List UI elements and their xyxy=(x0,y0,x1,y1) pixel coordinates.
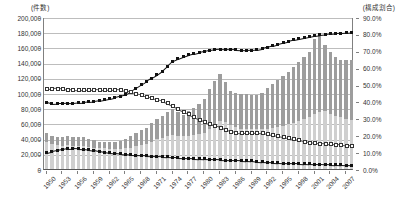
y-axis-tick-mark xyxy=(38,155,41,156)
data-point-marker xyxy=(56,87,60,91)
y-axis-tick-label: 140,000 xyxy=(4,60,41,67)
data-point-marker xyxy=(208,49,211,52)
x-axis-tick-mark xyxy=(77,171,78,174)
data-point-marker xyxy=(182,55,185,58)
bar-segment-upper xyxy=(92,140,95,148)
y-axis-tick-mark xyxy=(38,18,41,19)
bar-column xyxy=(271,84,274,169)
x-axis-tick-mark xyxy=(282,171,283,174)
bar-segment-upper xyxy=(213,81,216,125)
data-point-marker xyxy=(255,131,259,135)
data-point-marker xyxy=(77,88,81,92)
y2-axis-tick-mark xyxy=(356,18,359,19)
data-point-marker xyxy=(329,163,332,166)
data-point-marker xyxy=(108,88,112,92)
data-point-marker xyxy=(350,144,354,148)
data-point-marker xyxy=(245,131,249,135)
data-point-marker xyxy=(155,73,158,76)
bar-segment-lower xyxy=(213,125,216,169)
data-point-marker xyxy=(224,128,228,132)
left-axis-labels: 020,00040,00060,00080,000100,000120,0001… xyxy=(0,18,41,170)
data-point-marker xyxy=(82,148,85,151)
y2-axis-tick-mark xyxy=(356,86,359,87)
bar-segment-lower xyxy=(171,135,174,169)
x-axis-tick-mark xyxy=(93,171,94,174)
bar-segment-upper xyxy=(350,60,353,119)
data-point-marker xyxy=(161,70,164,73)
x-axis-tick-mark xyxy=(235,171,236,174)
bar-segment-upper xyxy=(302,57,305,119)
data-point-marker xyxy=(98,150,101,153)
chart-container: (件数) (構成割合) 020,00040,00060,00080,000100… xyxy=(0,0,401,210)
bar-segment-upper xyxy=(50,136,53,144)
x-axis-tick-mark xyxy=(314,171,315,174)
bar-segment-upper xyxy=(150,123,153,142)
y-axis-tick-label: 200,000 xyxy=(4,15,41,22)
data-point-marker xyxy=(113,152,116,155)
y-axis-tick-label: 180,000 xyxy=(4,30,41,37)
data-point-marker xyxy=(166,65,169,68)
data-point-marker xyxy=(318,33,321,36)
data-point-marker xyxy=(271,44,274,47)
data-point-marker xyxy=(282,162,285,165)
data-point-marker xyxy=(250,159,253,162)
x-axis-tick-mark xyxy=(172,171,173,174)
bar-segment-upper xyxy=(250,95,253,129)
data-point-marker xyxy=(240,49,243,52)
bar-column xyxy=(329,52,332,169)
y2-axis-tick-mark xyxy=(356,102,359,103)
bar-segment-upper xyxy=(329,52,332,114)
x-axis-tick-mark xyxy=(298,171,299,174)
data-point-marker xyxy=(192,157,195,160)
bar-column xyxy=(113,142,116,169)
bar-column xyxy=(281,76,284,169)
x-axis-tick-mark xyxy=(140,171,141,174)
bar-column xyxy=(344,60,347,169)
data-point-marker xyxy=(113,88,117,92)
data-point-marker xyxy=(266,132,270,136)
bar-segment-lower xyxy=(124,148,127,169)
data-point-marker xyxy=(187,157,190,160)
y-axis-tick-label: 100,000 xyxy=(4,91,41,98)
data-point-marker xyxy=(155,155,158,158)
data-point-marker xyxy=(276,43,279,46)
bar-series-group xyxy=(44,18,352,169)
data-point-marker xyxy=(129,90,133,94)
data-point-marker xyxy=(313,141,317,145)
data-point-marker xyxy=(129,153,132,156)
data-point-marker xyxy=(292,137,296,141)
y2-axis-tick-label: 80.0% xyxy=(363,31,381,38)
data-point-marker xyxy=(87,100,90,103)
bar-segment-upper xyxy=(140,130,143,144)
data-point-marker xyxy=(192,115,196,119)
bar-segment-upper xyxy=(124,139,127,149)
data-point-marker xyxy=(287,136,291,140)
x-axis-tick-mark xyxy=(203,171,204,174)
bar-segment-upper xyxy=(45,133,48,142)
data-point-marker xyxy=(345,144,349,148)
data-point-marker xyxy=(155,98,159,102)
bar-segment-upper xyxy=(182,115,185,136)
bar-segment-upper xyxy=(260,93,263,129)
data-point-marker xyxy=(240,131,244,135)
y-axis-tick-mark xyxy=(38,64,41,65)
data-point-marker xyxy=(77,147,80,150)
bar-segment-upper xyxy=(171,109,174,135)
bar-segment-upper xyxy=(318,36,321,112)
data-point-marker xyxy=(145,154,148,157)
data-point-marker xyxy=(176,57,179,60)
bar-segment-upper xyxy=(129,136,132,147)
x-axis-tick-mark xyxy=(266,171,267,174)
data-point-marker xyxy=(345,31,348,34)
y-axis-tick-mark xyxy=(38,48,41,49)
bar-segment-upper xyxy=(339,60,342,118)
data-point-marker xyxy=(303,140,307,144)
data-point-marker xyxy=(213,158,216,161)
bar-segment-upper xyxy=(218,74,221,121)
bar-column xyxy=(108,142,111,169)
data-point-marker xyxy=(182,110,186,114)
data-point-marker xyxy=(297,37,300,40)
data-point-marker xyxy=(119,152,122,155)
y-axis-tick-label: 0 xyxy=(4,167,41,174)
bar-segment-lower xyxy=(187,136,190,169)
